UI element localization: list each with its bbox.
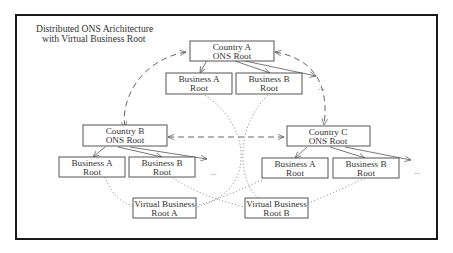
svg-text:Root: Root [357, 168, 375, 178]
node-country-b-business-b-root: Business B Root [129, 157, 195, 177]
dotted-link-vb-country-a-business-b [243, 93, 270, 200]
svg-text:Root: Root [153, 167, 171, 177]
svg-text:ONS Root: ONS Root [309, 136, 348, 146]
svg-text:Root: Root [83, 167, 101, 177]
arrow-country-b-business-a [93, 147, 105, 157]
more-items-country-b: ... [210, 167, 217, 177]
arrow-country-c-business-b [330, 147, 365, 158]
node-country-c-business-b-root: Business B Root [333, 158, 399, 178]
node-country-a-business-b-root: Business B Root [236, 73, 302, 94]
node-country-a-ons-root: Country A ONS Root [190, 41, 274, 61]
diagram-canvas: Distributed ONS Arichitecture with Virtu… [0, 0, 453, 253]
node-country-c-ons-root: Country C ONS Root [287, 126, 370, 146]
node-country-c-business-a-root: Business A Root [262, 158, 328, 178]
node-country-b-business-a-root: Business A Root [59, 157, 125, 177]
dotted-link-vb-country-c-business-b [305, 178, 365, 205]
node-virtual-business-root-b: Virtual Business Root B [245, 198, 308, 218]
svg-text:Root: Root [260, 83, 278, 93]
dotted-link-va-country-a-business-a [195, 93, 241, 205]
arrow-country-a-business-a [200, 60, 207, 73]
dotted-link-va-country-b-business-a [105, 177, 133, 206]
svg-text:Root A: Root A [151, 208, 178, 218]
svg-text:Root: Root [190, 83, 208, 93]
more-items-country-a: ... [318, 82, 325, 92]
svg-text:Root: Root [286, 168, 304, 178]
svg-text:Root B: Root B [263, 208, 289, 218]
node-country-b-ons-root: Country B ONS Root [83, 125, 167, 146]
svg-text:ONS Root: ONS Root [106, 135, 145, 145]
more-items-country-c: ... [414, 166, 421, 176]
node-virtual-business-root-a: Virtual Business Root A [133, 198, 196, 218]
diagram-title-line2: with Virtual Business Root [42, 33, 146, 44]
svg-text:ONS Root: ONS Root [213, 51, 252, 61]
arrow-country-c-business-a [295, 147, 307, 158]
node-country-a-business-a-root: Business A Root [166, 73, 232, 94]
